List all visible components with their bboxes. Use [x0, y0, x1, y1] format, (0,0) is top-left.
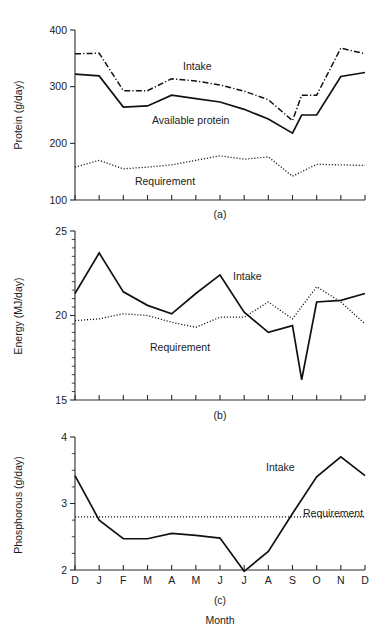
- x-tick-label: F: [120, 574, 126, 586]
- series-label-intake: Intake: [233, 270, 262, 282]
- y-axis-title: Energy (MJ/day): [12, 277, 24, 354]
- series-label-requirement: Requirement: [135, 175, 195, 187]
- x-tick-label: J: [217, 574, 222, 586]
- x-tick-label: D: [361, 574, 369, 586]
- series-line-requirement: [75, 156, 365, 176]
- series-label-requirement: Requirement: [303, 507, 363, 519]
- panel-label: (c): [214, 594, 226, 606]
- axis-lines: [75, 231, 365, 400]
- axis-lines: [75, 437, 365, 570]
- x-tick-label: N: [337, 574, 345, 586]
- series-label-intake: Intake: [183, 60, 212, 72]
- chart-panel-c: 234DJFMAMJJASONDIntakeRequirementPhospho…: [12, 431, 369, 606]
- multi-panel-line-chart: 100200300400IntakeAvailable proteinRequi…: [0, 0, 384, 628]
- y-tick-label: 25: [55, 225, 67, 237]
- x-tick-label: J: [97, 574, 102, 586]
- series-label-intake: Intake: [266, 461, 295, 473]
- y-tick-label: 400: [49, 24, 67, 36]
- y-tick-label: 300: [49, 80, 67, 92]
- y-axis-title: Protein (g/day): [12, 81, 24, 150]
- panel-label: (b): [214, 409, 227, 421]
- y-tick-label: 100: [49, 194, 67, 206]
- series-line-intake: [75, 48, 365, 121]
- series-label-requirement: Requirement: [150, 341, 210, 353]
- series-line-intake: [75, 253, 365, 380]
- figure-container: 100200300400IntakeAvailable proteinRequi…: [0, 0, 384, 628]
- panel-label: (a): [214, 208, 227, 220]
- y-tick-label: 200: [49, 137, 67, 149]
- x-tick-label: M: [191, 574, 200, 586]
- x-tick-label: J: [242, 574, 247, 586]
- y-tick-label: 3: [61, 497, 67, 509]
- x-axis-title: Month: [205, 614, 234, 626]
- x-tick-label: A: [168, 574, 175, 586]
- x-tick-label: O: [313, 574, 321, 586]
- chart-panel-a: 100200300400IntakeAvailable proteinRequi…: [12, 24, 365, 220]
- x-tick-label: S: [289, 574, 296, 586]
- series-line-requirement: [75, 287, 365, 328]
- y-tick-label: 4: [61, 431, 67, 443]
- x-tick-label: M: [143, 574, 152, 586]
- chart-panel-b: 152025IntakeRequirementEnergy (MJ/day)(b…: [12, 225, 365, 421]
- series-label-available-protein: Available protein: [152, 114, 230, 126]
- y-axis-title: Phosphorous (g/day): [12, 456, 24, 553]
- y-tick-label: 2: [61, 564, 67, 576]
- x-tick-label: A: [265, 574, 272, 586]
- x-tick-label: D: [71, 574, 79, 586]
- y-tick-label: 20: [55, 309, 67, 321]
- y-tick-label: 15: [55, 394, 67, 406]
